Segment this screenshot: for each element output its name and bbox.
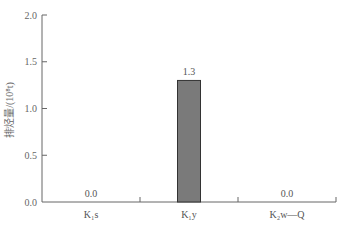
y-axis-label: 排烃量/(10⁸t) xyxy=(3,82,16,138)
y-tick-label: 1.0 xyxy=(25,103,38,114)
y-tick-label: 0.5 xyxy=(25,150,38,161)
y-tick-label: 2.0 xyxy=(25,10,38,21)
y-axis: 0.00.51.01.52.0 xyxy=(25,10,48,208)
bar-value-label: 1.3 xyxy=(183,66,196,77)
x-category-label: K₂w—Q xyxy=(269,209,305,220)
x-category-label: K₁s xyxy=(84,209,99,220)
bar-value-label: 0.0 xyxy=(281,188,294,199)
y-tick-label: 1.5 xyxy=(25,56,38,67)
bar xyxy=(178,80,201,202)
bar-chart: 0.00.51.01.52.0 0.0K₁s1.3K₁y0.0K₂w—Q 排烃量… xyxy=(0,0,349,230)
x-category-label: K₁y xyxy=(181,209,197,220)
bar-value-label: 0.0 xyxy=(85,188,98,199)
bars: 0.0K₁s1.3K₁y0.0K₂w—Q xyxy=(84,66,306,220)
y-tick-label: 0.0 xyxy=(25,197,38,208)
